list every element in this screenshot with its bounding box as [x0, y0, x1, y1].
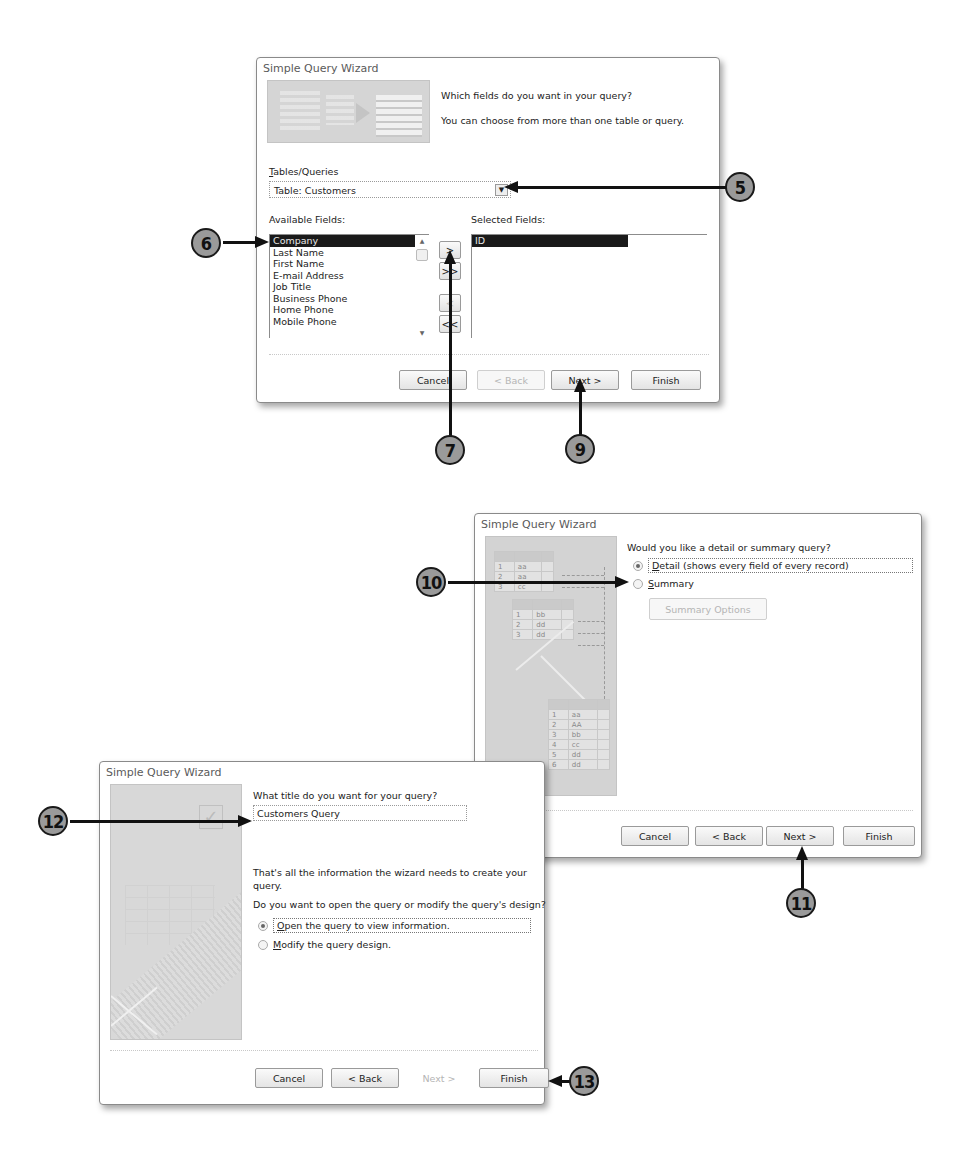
cell	[549, 700, 569, 710]
callout-5: 5	[725, 172, 755, 202]
back-button[interactable]: < Back	[695, 826, 763, 846]
dash-vertical	[604, 567, 605, 699]
wizard-dialog-fields: Simple Query Wizard Which fields do you …	[256, 57, 720, 403]
list-item[interactable]: Home Phone	[270, 304, 429, 316]
list-item[interactable]: First Name	[270, 258, 429, 270]
back-button[interactable]: < Back	[477, 370, 545, 390]
summary-label-rest: ummary	[654, 578, 694, 589]
modify-design-radio[interactable]: Modify the query design.	[258, 939, 391, 950]
next-button[interactable]: Next >	[405, 1068, 473, 1088]
arrowhead-icon	[574, 378, 586, 392]
cell: dd	[533, 620, 561, 630]
scrollbar[interactable]: ▲ ▼	[415, 235, 429, 338]
tables-label-rest: ables/Queries	[273, 166, 338, 177]
cell: bb	[533, 610, 561, 620]
summary-options-button[interactable]: Summary Options	[649, 598, 767, 620]
cell: 2	[495, 572, 515, 582]
arrowhead-icon	[504, 181, 518, 193]
radio-button[interactable]	[258, 940, 268, 950]
scroll-thumb[interactable]	[416, 249, 428, 261]
callout-line	[223, 241, 257, 244]
cell	[561, 600, 573, 610]
cell: aa	[568, 710, 597, 720]
list-item[interactable]: Business Phone	[270, 293, 429, 305]
radio-label: Modify the query design.	[273, 939, 391, 950]
cell	[597, 700, 609, 710]
finish-button[interactable]: Finish	[843, 826, 915, 846]
table-row: 5dd	[549, 750, 610, 760]
radio-label: Detail (shows every field of every recor…	[648, 558, 913, 573]
sample-table-1: 1aa2aa3cc	[494, 551, 554, 592]
detail-radio[interactable]: Detail (shows every field of every recor…	[633, 558, 913, 573]
cell: 3	[513, 630, 533, 640]
cell: 5	[549, 750, 569, 760]
cancel-button[interactable]: Cancel	[621, 826, 689, 846]
table-row: 1aa	[549, 710, 610, 720]
summary-radio[interactable]: Summary	[633, 578, 694, 589]
scroll-up-icon[interactable]: ▲	[415, 237, 429, 244]
tables-queries-combobox[interactable]: Table: Customers ▼	[269, 181, 511, 198]
cell: cc	[568, 740, 597, 750]
info-text: That's all the information the wizard ne…	[253, 866, 543, 892]
callout-line	[449, 262, 452, 437]
wizard-dialog-finish: Simple Query Wizard ✓ What title do you …	[99, 761, 545, 1105]
list-item[interactable]: ID	[472, 235, 628, 247]
callout-line	[801, 858, 804, 890]
dash-line	[578, 645, 604, 646]
list-item[interactable]: E-mail Address	[270, 270, 429, 282]
available-fields-list[interactable]: CompanyLast NameFirst NameE-mail Address…	[269, 234, 429, 338]
table-header	[549, 700, 610, 710]
cancel-button[interactable]: Cancel	[399, 370, 467, 390]
divider	[110, 1050, 538, 1051]
cell	[597, 740, 609, 750]
next-button[interactable]: Next >	[766, 826, 834, 846]
cell: 2	[549, 720, 569, 730]
cell: 2	[513, 620, 533, 630]
arrowhead-icon	[238, 815, 252, 827]
cell	[541, 562, 553, 572]
cell: 1	[513, 610, 533, 620]
scroll-down-icon[interactable]: ▼	[415, 329, 429, 336]
list-item[interactable]: Job Title	[270, 281, 429, 293]
question-text: Do you want to open the query or modify …	[253, 899, 546, 910]
list-item[interactable]: Mobile Phone	[270, 316, 429, 328]
callout-line	[516, 186, 726, 189]
finish-button[interactable]: Finish	[479, 1068, 549, 1088]
table-row: 3dd	[513, 630, 574, 640]
radio-button[interactable]	[258, 921, 268, 931]
prompt-text: Which fields do you want in your query?	[441, 90, 632, 101]
radio-label: Summary	[648, 578, 694, 589]
callout-13: 13	[569, 1066, 599, 1096]
cell: 3	[549, 730, 569, 740]
dash-line	[578, 633, 604, 634]
table-header	[495, 552, 554, 562]
radio-button[interactable]	[633, 579, 643, 589]
detail-label-rest: etail (shows every field of every record…	[659, 560, 848, 571]
finish-button[interactable]: Finish	[631, 370, 701, 390]
table-row: 1bb	[513, 610, 574, 620]
open-query-radio[interactable]: Open the query to view information.	[258, 918, 531, 933]
list-item[interactable]: Company	[270, 235, 415, 247]
prompt-text: Would you like a detail or summary query…	[627, 542, 831, 553]
cell: dd	[568, 750, 597, 760]
cell	[597, 760, 609, 770]
dialog-title: Simple Query Wizard	[106, 766, 222, 779]
cancel-button[interactable]: Cancel	[255, 1068, 323, 1088]
combobox-value: Table: Customers	[274, 185, 356, 196]
dialog-title: Simple Query Wizard	[263, 62, 379, 75]
arrowhead-icon	[255, 236, 269, 248]
dash-line	[562, 587, 604, 588]
callout-9: 9	[565, 434, 595, 464]
selected-fields-list[interactable]: ID	[471, 234, 707, 338]
back-button[interactable]: < Back	[331, 1068, 399, 1088]
callout-12: 12	[38, 806, 68, 836]
radio-button[interactable]	[633, 561, 643, 571]
cell: 1	[549, 710, 569, 720]
table-row: 2AA	[549, 720, 610, 730]
cell: 4	[549, 740, 569, 750]
list-item[interactable]: Last Name	[270, 247, 429, 259]
checkmark-icon: ✓	[199, 805, 223, 829]
callout-line	[70, 820, 240, 823]
modify-label-rest: odify the query design.	[281, 939, 391, 950]
query-title-input[interactable]: Customers Query	[253, 805, 467, 821]
